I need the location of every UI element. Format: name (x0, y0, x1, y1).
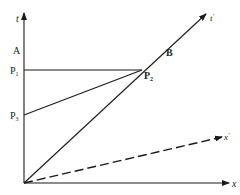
t-axis-label: t (16, 13, 19, 24)
point-p3-label: P3 (10, 110, 19, 122)
point-p2-label: P2 (144, 70, 153, 82)
t-prime-axis (24, 14, 206, 183)
x-axis-label: x (231, 178, 237, 189)
point-p1-label: P1 (10, 65, 19, 77)
point-a-label: A (13, 45, 21, 56)
point-b-label: B (166, 47, 173, 58)
spacetime-diagram: t x t′ x′ A B P1 P2 P3 (0, 0, 240, 195)
x-prime-axis-label: x′ (223, 131, 230, 142)
x-prime-axis (24, 137, 222, 183)
t-prime-axis-label: t′ (210, 12, 215, 23)
p3-p2-line (24, 70, 142, 115)
